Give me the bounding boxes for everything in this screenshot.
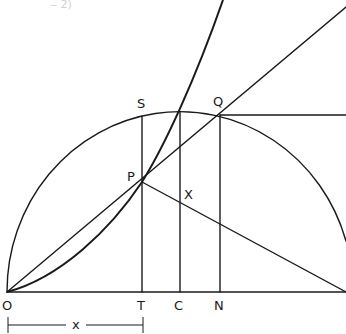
label-X: X xyxy=(184,187,193,202)
label-S: S xyxy=(137,96,145,111)
label-C: C xyxy=(174,298,183,313)
label-x-dimension: x xyxy=(72,317,80,332)
label-N: N xyxy=(214,298,224,313)
label-O: O xyxy=(2,298,12,313)
label-P: P xyxy=(127,169,135,184)
geometry-figure: ‒ 2) O T C N S Q P X x xyxy=(0,0,346,334)
line-OPQ xyxy=(7,7,346,292)
line-P-to-end xyxy=(142,182,346,292)
label-Q: Q xyxy=(213,94,223,109)
label-T: T xyxy=(136,298,145,313)
rising-curve xyxy=(7,0,223,292)
top-text-fragment: ‒ 2) xyxy=(50,0,72,11)
